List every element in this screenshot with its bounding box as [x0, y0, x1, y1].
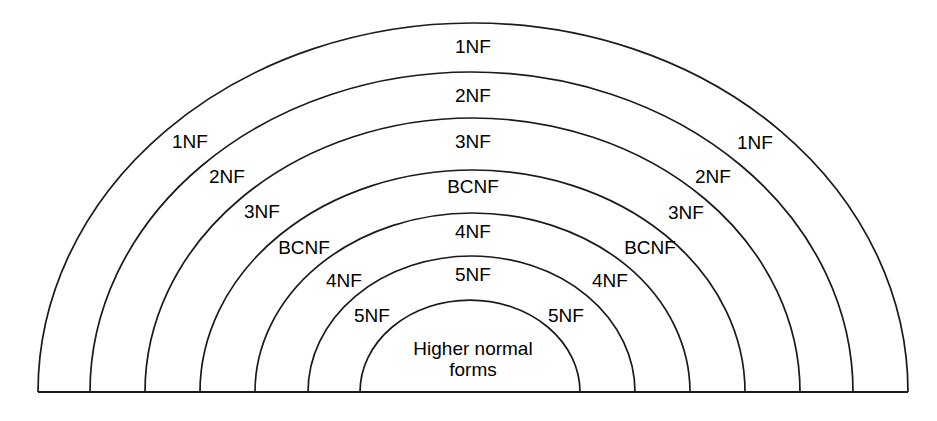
arc-label-right-2nf: 2NF [695, 166, 731, 187]
arc-group [38, 23, 908, 392]
arc-label-left-bcnf: BCNF [278, 237, 330, 258]
arc-label-right-bcnf: BCNF [624, 237, 676, 258]
arc-label-top-bcnf: BCNF [447, 176, 499, 197]
arc-label-right-4nf: 4NF [592, 270, 628, 291]
arc-label-right-5nf: 5NF [548, 305, 584, 326]
diagram-canvas: 1NF 2NF 3NF BCNF 4NF 5NF 1NF 2NF 3NF BCN… [0, 0, 937, 421]
arc-1 [38, 23, 908, 392]
arc-label-left-5nf: 5NF [354, 305, 390, 326]
arc-label-top-5nf: 5NF [455, 264, 491, 285]
arc-label-top-2nf: 2NF [455, 85, 491, 106]
arc-label-left-4nf: 4NF [326, 270, 362, 291]
core-label: Higher normal forms [398, 338, 548, 380]
arc-label-top-1nf: 1NF [455, 36, 491, 57]
arc-label-right-3nf: 3NF [668, 202, 704, 223]
core-label-line2: forms [398, 359, 548, 380]
arc-label-left-3nf: 3NF [244, 201, 280, 222]
arc-label-left-1nf: 1NF [172, 131, 208, 152]
arc-label-right-1nf: 1NF [737, 132, 773, 153]
arc-label-top-3nf: 3NF [455, 131, 491, 152]
arc-label-left-2nf: 2NF [209, 166, 245, 187]
arc-label-top-4nf: 4NF [455, 221, 491, 242]
core-label-line1: Higher normal [413, 338, 532, 359]
